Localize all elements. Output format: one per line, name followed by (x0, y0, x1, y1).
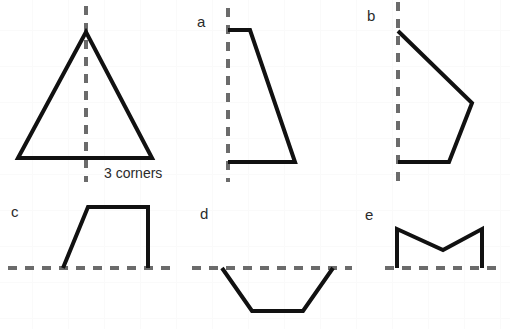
shape-c (63, 207, 148, 268)
figure-label-b: b (367, 8, 375, 23)
figure-b (398, 2, 472, 182)
figure-d (192, 268, 352, 311)
shape-e (397, 229, 482, 268)
figures-svg (0, 0, 510, 329)
figure-triangle (18, 6, 152, 182)
figure-label-c: c (11, 204, 19, 219)
shape-b (398, 31, 472, 162)
corners-annotation: 3 corners (104, 166, 162, 180)
figure-a (228, 8, 295, 182)
figure-label-e: e (365, 207, 373, 222)
shape-d (222, 268, 333, 311)
worksheet-canvas: a b c d e 3 corners (0, 0, 510, 329)
figure-e (385, 229, 503, 268)
figure-label-d: d (200, 206, 208, 221)
figure-label-a: a (197, 14, 205, 29)
figure-c (8, 207, 178, 268)
shape-a (228, 30, 295, 162)
